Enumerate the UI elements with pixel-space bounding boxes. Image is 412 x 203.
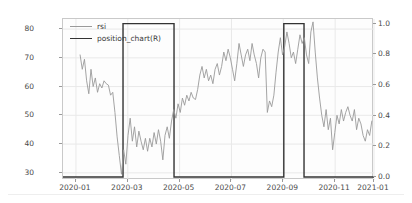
y-axis-right-tick-label: 0.8	[378, 49, 412, 58]
legend-label-position-chart: position_chart(R)	[97, 34, 161, 43]
chart-figure: rsi position_chart(R) 3040506070800.00.2…	[0, 4, 412, 192]
legend-item-rsi: rsi	[70, 22, 161, 31]
x-axis-tick-mark	[127, 179, 128, 182]
x-axis-tick-mark	[230, 179, 231, 182]
x-axis-tick-mark	[75, 179, 76, 182]
notebook-output-cell: Out rsi position_chart(R) 3040506070800.…	[0, 0, 412, 203]
y-axis-left-tick-mark	[59, 143, 62, 144]
x-axis-tick-mark	[282, 179, 283, 182]
y-axis-right-tick-label: 0.6	[378, 79, 412, 88]
y-axis-left-tick-label: 60	[0, 81, 34, 90]
y-axis-right-tick-mark	[373, 84, 376, 85]
y-axis-left-tick-label: 70	[0, 52, 34, 61]
y-axis-right-tick-label: 1.0	[378, 18, 412, 27]
y-axis-right-tick-mark	[373, 115, 376, 116]
x-axis-tick-mark	[334, 179, 335, 182]
rsi-line-series	[63, 19, 374, 180]
y-axis-left-tick-mark	[59, 28, 62, 29]
y-axis-right-tick-mark	[373, 145, 376, 146]
y-axis-left-tick-label: 50	[0, 110, 34, 119]
y-axis-right-tick-mark	[373, 176, 376, 177]
legend-item-position-chart: position_chart(R)	[70, 34, 161, 43]
y-axis-left-tick-label: 80	[0, 24, 34, 33]
y-axis-left-tick-mark	[59, 86, 62, 87]
y-axis-left-tick-mark	[59, 172, 62, 173]
legend-label-rsi: rsi	[97, 22, 106, 31]
y-axis-right-tick-mark	[373, 53, 376, 54]
y-axis-left-tick-mark	[59, 57, 62, 58]
y-axis-left-tick-label: 30	[0, 167, 34, 176]
y-axis-right-tick-label: 0.4	[378, 110, 412, 119]
y-axis-left-tick-mark	[59, 114, 62, 115]
x-axis-tick-label: 2021-01	[343, 183, 403, 192]
legend-swatch-position-chart	[70, 38, 92, 39]
y-axis-left-tick-label: 40	[0, 139, 34, 148]
legend-swatch-rsi	[70, 26, 92, 27]
y-axis-right-tick-label: 0.2	[378, 141, 412, 150]
y-axis-right-tick-label: 0.0	[378, 171, 412, 180]
x-axis-tick-mark	[373, 179, 374, 182]
chart-legend: rsi position_chart(R)	[70, 22, 161, 43]
y-axis-right-tick-mark	[373, 23, 376, 24]
cell-divider	[8, 194, 404, 195]
x-axis-tick-mark	[179, 179, 180, 182]
